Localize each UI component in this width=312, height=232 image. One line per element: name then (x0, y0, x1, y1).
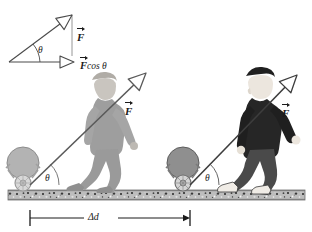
right-person-shoe-back (218, 182, 239, 192)
displacement-right-arrowhead (183, 215, 190, 221)
left-force-label: F (125, 106, 132, 117)
left-person-pants (78, 149, 121, 193)
left-angle-label: θ (45, 174, 50, 184)
right-person-front-hand (292, 136, 301, 145)
right-person-shoe-front (252, 185, 272, 194)
left-scene-group (6, 67, 152, 193)
right-angle-label: θ (205, 174, 210, 184)
force-arrowhead (56, 9, 76, 29)
left-person-head (94, 78, 116, 100)
vector-diagram-component-label: Fcos θ (80, 56, 107, 72)
vector-diagram-force-label: F (77, 32, 84, 43)
left-person-figure (66, 72, 138, 193)
right-force-label: F (282, 108, 289, 119)
diagram-vector-layer (0, 0, 312, 232)
vector-diagram-angle-label: θ (38, 46, 43, 56)
right-cart (166, 147, 200, 191)
displacement-measure-line (30, 210, 190, 226)
right-person-back-hand (237, 146, 245, 154)
left-angle-arc (50, 164, 59, 185)
left-person-hand (130, 142, 138, 150)
displacement-label: Δd (88, 212, 99, 222)
right-person-head (248, 75, 273, 99)
right-angle-arc (210, 164, 219, 185)
component-arrowhead (60, 56, 74, 68)
physics-diagram-canvas: F θ Fcos θ F θ F θ Δd (0, 0, 312, 232)
right-scene-group (166, 67, 303, 195)
left-person-shoe-front (96, 186, 113, 193)
left-cart (6, 147, 40, 191)
